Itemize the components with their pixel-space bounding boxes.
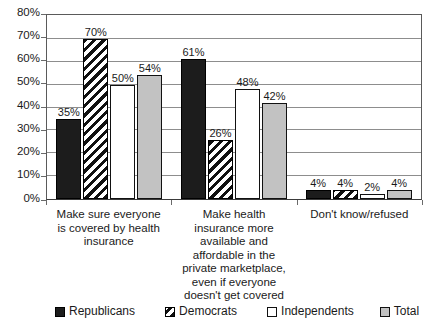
bar-slot: 2% <box>360 15 385 199</box>
plot-area: 35%70%50%54%61%26%48%42%4%4%2%4% <box>46 14 422 200</box>
bar-republicans-0: 35% <box>56 119 81 199</box>
bar-democrats-2: 4% <box>333 190 358 199</box>
y-tick-label-10: 10% <box>17 168 40 180</box>
bar-slot: 54% <box>137 15 162 199</box>
x-label-category-0: Make sure everyone is covered by health … <box>46 208 171 303</box>
y-tick-label-20: 20% <box>17 145 40 157</box>
bar-slot: 50% <box>110 15 135 199</box>
bar-value-label: 35% <box>58 106 80 119</box>
x-tick-mark <box>46 200 47 205</box>
legend-item-democrats[interactable]: Democrats <box>165 305 237 318</box>
legend-label: Total <box>394 305 419 318</box>
bar-groups: 35%70%50%54%61%26%48%42%4%4%2%4% <box>47 15 421 199</box>
bar-value-label: 54% <box>139 62 161 75</box>
bar-slot: 35% <box>56 15 81 199</box>
bar-slot: 48% <box>235 15 260 199</box>
bar-value-label: 4% <box>310 177 326 190</box>
x-tick-mark <box>171 200 172 205</box>
bar-value-label: 4% <box>337 177 353 190</box>
bar-slot: 70% <box>83 15 108 199</box>
y-tick-label-50: 50% <box>17 75 40 87</box>
legend-swatch-icon <box>165 307 175 317</box>
bar-independents-1: 48% <box>235 89 260 199</box>
x-axis-labels: Make sure everyone is covered by health … <box>46 208 422 303</box>
bar-group: 35%70%50%54% <box>47 15 172 199</box>
bar-slot: 26% <box>208 15 233 199</box>
chart-legend: RepublicansDemocratsIndependentsTotal <box>55 305 425 318</box>
bar-group: 4%4%2%4% <box>296 15 421 199</box>
bar-value-label: 48% <box>236 76 258 89</box>
bar-total-2: 4% <box>387 190 412 199</box>
bar-independents-0: 50% <box>110 85 135 199</box>
x-axis-ticks <box>46 200 422 206</box>
bar-slot: 4% <box>387 15 412 199</box>
legend-item-republicans[interactable]: Republicans <box>55 305 135 318</box>
bar-independents-2: 2% <box>360 194 385 199</box>
bar-chart: 80% 70% 60% 50% 40% 30% 20% 10% 0% 35%70… <box>0 0 435 325</box>
y-tick-label-80: 80% <box>17 6 40 18</box>
bar-value-label: 4% <box>391 177 407 190</box>
legend-item-independents[interactable]: Independents <box>267 305 354 318</box>
x-tick-mark <box>422 200 423 205</box>
y-tick-label-30: 30% <box>17 122 40 134</box>
legend-swatch-icon <box>55 307 65 317</box>
bar-democrats-1: 26% <box>208 140 233 199</box>
x-label-category-1: Make health insurance more available and… <box>171 208 296 303</box>
legend-swatch-icon <box>267 307 277 317</box>
legend-label: Independents <box>281 305 354 318</box>
bar-value-label: 26% <box>209 127 231 140</box>
x-tick-mark <box>297 200 298 205</box>
y-tick-label-0: 0% <box>23 192 40 204</box>
y-tick-label-60: 60% <box>17 52 40 64</box>
bar-slot: 61% <box>181 15 206 199</box>
bar-value-label: 2% <box>364 181 380 194</box>
y-axis: 80% 70% 60% 50% 40% 30% 20% 10% 0% <box>0 6 42 206</box>
legend-label: Democrats <box>179 305 237 318</box>
bar-value-label: 42% <box>263 90 285 103</box>
bar-value-label: 70% <box>85 26 107 39</box>
bar-democrats-0: 70% <box>83 39 108 199</box>
bar-slot: 42% <box>262 15 287 199</box>
bar-value-label: 50% <box>112 72 134 85</box>
y-tick-label-70: 70% <box>17 29 40 41</box>
y-tick-label-40: 40% <box>17 99 40 111</box>
bar-total-1: 42% <box>262 103 287 199</box>
bar-value-label: 61% <box>182 46 204 59</box>
bar-slot: 4% <box>333 15 358 199</box>
legend-item-total[interactable]: Total <box>380 305 419 318</box>
bar-slot: 4% <box>306 15 331 199</box>
bar-republicans-2: 4% <box>306 190 331 199</box>
legend-label: Republicans <box>69 305 135 318</box>
x-label-category-2: Don't know/refused <box>297 208 422 303</box>
legend-swatch-icon <box>380 307 390 317</box>
bar-total-0: 54% <box>137 75 162 199</box>
bar-republicans-1: 61% <box>181 59 206 199</box>
bar-group: 61%26%48%42% <box>172 15 297 199</box>
